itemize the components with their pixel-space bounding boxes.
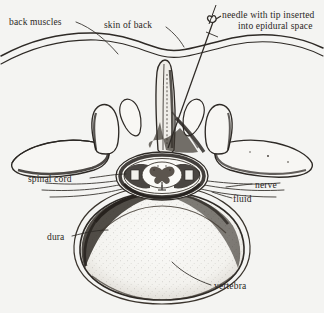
label-spinal-cord: spinal cord (28, 174, 72, 185)
label-needle: needle with tip inserted into epidural s… (222, 10, 315, 32)
label-needle-line2: into epidural space (222, 21, 315, 32)
spinal-canal (116, 152, 208, 200)
label-needle-line1: needle with tip inserted (222, 10, 315, 20)
epidural-anatomy-figure (0, 0, 324, 313)
label-nerve: nerve (255, 180, 277, 191)
label-dura: dura (47, 232, 64, 243)
label-vertebra: vertebra (214, 281, 246, 292)
label-back-muscles: back muscles (9, 17, 62, 28)
label-skin-of-back: skin of back (104, 20, 152, 31)
label-fluid: fluid (233, 194, 252, 205)
